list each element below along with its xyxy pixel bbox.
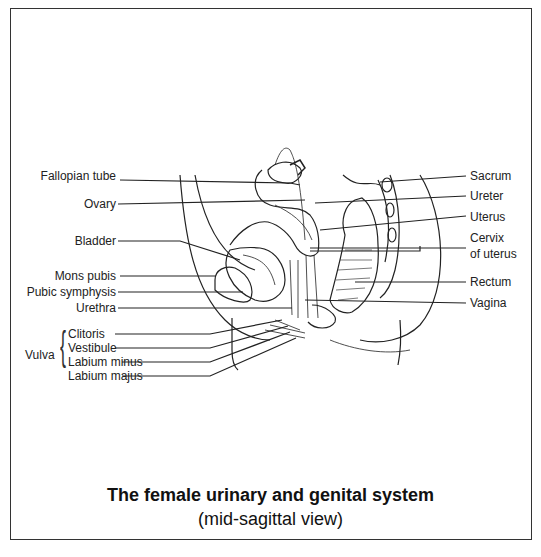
brace-icon: {	[60, 326, 66, 366]
label-labium-minus: Labium minus	[68, 355, 143, 369]
label-vulva: Vulva	[25, 348, 55, 362]
label-pubic-symphysis: Pubic symphysis	[10, 285, 116, 299]
label-clitoris: Clitoris	[68, 327, 105, 341]
label-sacrum: Sacrum	[470, 169, 511, 183]
label-cervix-line2: of uterus	[470, 247, 517, 261]
label-bladder: Bladder	[20, 234, 116, 248]
label-labium-majus: Labium majus	[68, 369, 143, 383]
figure-subtitle: (mid-sagittal view)	[0, 507, 541, 531]
label-cervix-line1: Cervix	[470, 231, 504, 245]
figure-title: The female urinary and genital system	[0, 483, 541, 507]
label-vagina: Vagina	[470, 296, 506, 310]
label-ovary: Ovary	[20, 197, 116, 211]
label-rectum: Rectum	[470, 275, 511, 289]
label-fallopian-tube: Fallopian tube	[20, 169, 116, 183]
label-mons-pubis: Mons pubis	[20, 269, 116, 283]
label-ureter: Ureter	[470, 189, 503, 203]
label-vestibule: Vestibule	[68, 341, 117, 355]
label-uterus: Uterus	[470, 210, 505, 224]
label-urethra: Urethra	[20, 301, 116, 315]
